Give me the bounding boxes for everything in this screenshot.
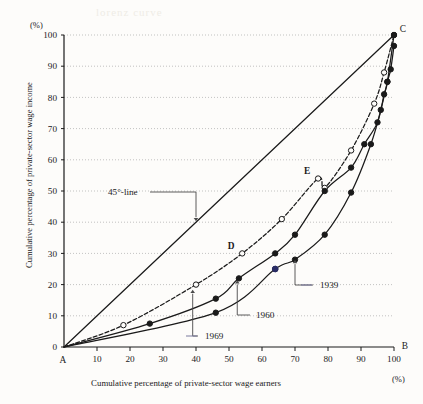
- y-tick-label-0: 0: [52, 342, 57, 352]
- y-tick-label-40: 40: [48, 217, 58, 227]
- marker-1960-8: [362, 142, 367, 147]
- y-tick-label-50: 50: [48, 186, 58, 196]
- marker-1969-7: [348, 148, 353, 153]
- marker-1960-5: [292, 232, 297, 237]
- marker-1969-2: [193, 282, 198, 287]
- y-tick-label-100: 100: [43, 30, 57, 40]
- x-tick-label-40: 40: [191, 354, 201, 364]
- y-tick-label-70: 70: [48, 124, 58, 134]
- callout-1960-label: 1960: [256, 310, 275, 320]
- x-axis-title: Cumulative percentage of private-sector …: [0, 378, 372, 388]
- marker-1969-5: [315, 176, 320, 181]
- marker-1960-1: [147, 321, 152, 326]
- x-tick-label-60: 60: [257, 354, 267, 364]
- x-tick-label-10: 10: [92, 354, 102, 364]
- callout-1960-leader: [237, 284, 250, 315]
- marker-1939-6: [368, 142, 373, 147]
- x-tick-label-90: 90: [356, 354, 366, 364]
- marker-1969-4: [279, 216, 284, 221]
- y-tick-label-60: 60: [48, 155, 58, 165]
- marker-1969-9: [381, 70, 386, 75]
- x-tick-label-50: 50: [224, 354, 234, 364]
- callout-1939-label: 1939: [320, 280, 339, 290]
- x-tick-label-20: 20: [125, 354, 135, 364]
- page-bleed-through: lorenz curve: [96, 6, 163, 18]
- marker-1960-2: [213, 296, 218, 301]
- marker-1939-8: [385, 79, 390, 84]
- lorenz-curve-figure: lorenz curve (%) Cumulative percentage o…: [0, 0, 423, 404]
- annotations: ABCDE45°-line196919601939: [60, 24, 409, 365]
- x-tick-label-80: 80: [323, 354, 333, 364]
- x-tick-label-70: 70: [290, 354, 300, 364]
- marker-1939-5: [348, 190, 353, 195]
- marker-1960-10: [381, 92, 386, 97]
- x-axis-unit: (%): [392, 374, 405, 384]
- y-tick-label-90: 90: [48, 61, 58, 71]
- point-d: D: [228, 241, 235, 251]
- marker-1960-3: [236, 276, 241, 281]
- arrowhead: [190, 290, 195, 293]
- marker-1939-1: [213, 310, 218, 315]
- callout-1969-leader: [193, 294, 198, 336]
- marker-1939-highlight: [272, 266, 278, 272]
- marker-1960-9: [375, 120, 380, 125]
- corner-b: B: [402, 341, 408, 351]
- marker-1969-8: [372, 101, 377, 106]
- x-tick-label-30: 30: [158, 354, 168, 364]
- plot-canvas: 0102030405060708090100102030405060708090…: [0, 0, 423, 404]
- y-tick-label-30: 30: [48, 249, 58, 259]
- marker-1969-3: [240, 251, 245, 256]
- y-axis-unit: (%): [30, 20, 43, 30]
- marker-1960-7: [348, 165, 353, 170]
- corner-a: A: [60, 355, 67, 365]
- corner-c: C: [400, 24, 406, 34]
- marker-1960-6: [322, 188, 327, 193]
- marker-1969-1: [121, 322, 126, 327]
- marker-1939-10: [391, 43, 396, 48]
- marker-1960-4: [273, 251, 278, 256]
- y-axis-title: Cumulative percentage of private-sector …: [24, 50, 34, 300]
- callout-1969-label: 1969: [205, 331, 224, 341]
- y-tick-label-10: 10: [48, 311, 58, 321]
- y-tick-label-80: 80: [48, 93, 58, 103]
- marker-1939-4: [322, 232, 327, 237]
- callout-45-line-leader: [150, 192, 196, 217]
- y-tick-label-20: 20: [48, 280, 58, 290]
- series-markers: [121, 32, 397, 328]
- callout-45-line-label: 45°-line: [108, 187, 138, 197]
- callout-1939-leader: [295, 264, 313, 285]
- x-tick-label-100: 100: [387, 354, 401, 364]
- gridlines: [64, 35, 394, 316]
- marker-1939-7: [378, 107, 383, 112]
- marker-1939-9: [388, 67, 393, 72]
- point-e: E: [304, 166, 310, 176]
- marker-1960-12: [391, 32, 396, 37]
